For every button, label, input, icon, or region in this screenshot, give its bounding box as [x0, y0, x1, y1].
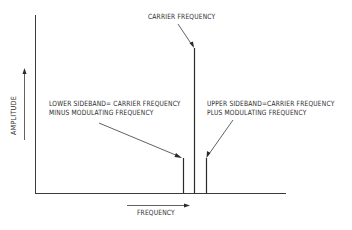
frequency-arrow-icon	[127, 204, 190, 208]
upper-sideband-label-line2: PLUS MODULATING FREQUENCY	[207, 108, 307, 117]
lower-sideband-label-line1: LOWER SIDEBAND= CARRIER FREQUENCY	[49, 99, 181, 108]
upper-sideband-pointer-arrow-icon	[207, 120, 234, 158]
carrier-pointer-arrow-icon	[178, 24, 194, 48]
upper-sideband-label-line1: UPPER SIDEBAND=CARRIER FREQUENCY	[207, 99, 334, 108]
x-axis-label: FREQUENCY	[137, 208, 175, 217]
lower-sideband-label-line2: MINUS MODULATING FREQUENCY	[49, 108, 153, 117]
amplitude-arrow-icon	[23, 68, 27, 140]
carrier-frequency-label: CARRIER FREQUENCY	[148, 12, 215, 21]
y-axis-label: AMPLITUDE	[9, 96, 18, 135]
am-spectrum-diagram: CARRIER FREQUENCY LOWER SIDEBAND= CARRIE…	[0, 0, 352, 230]
lower-sideband-pointer-arrow-icon	[99, 123, 182, 158]
